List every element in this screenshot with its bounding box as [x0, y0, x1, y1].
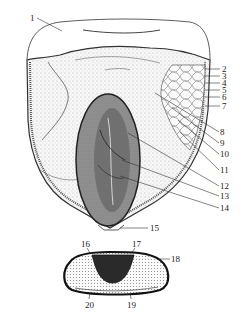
label-19: 19 [127, 301, 136, 310]
cross-section [64, 252, 168, 295]
seed-diagram: 1 2 3 4 5 6 7 8 9 10 11 12 13 14 15 16 1… [0, 0, 243, 332]
label-12: 12 [220, 182, 229, 191]
label-9: 9 [220, 139, 225, 148]
label-13: 13 [220, 192, 229, 201]
label-14: 14 [220, 204, 229, 213]
label-17: 17 [132, 240, 141, 249]
label-10: 10 [220, 150, 229, 159]
label-15: 15 [150, 224, 159, 233]
label-20: 20 [85, 301, 94, 310]
embryo [76, 94, 140, 226]
label-7: 7 [222, 102, 227, 111]
label-18: 18 [171, 255, 180, 264]
seed-illustration [0, 0, 243, 332]
label-8: 8 [220, 128, 225, 137]
label-1: 1 [30, 14, 35, 23]
label-11: 11 [220, 166, 229, 175]
label-16: 16 [81, 240, 90, 249]
